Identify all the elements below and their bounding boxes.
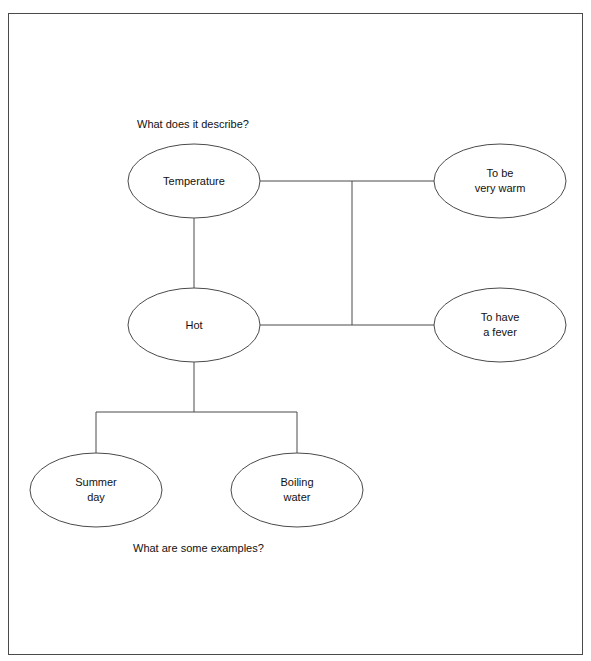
node-layer [30, 144, 566, 527]
node-oval-to-be-very-warm[interactable] [434, 144, 566, 218]
bottom-question-label: What are some examples? [133, 541, 264, 555]
diagram-page: TemperatureTo be very warmHotTo have a f… [0, 0, 591, 661]
diagram-canvas [0, 0, 591, 661]
top-question-label: What does it describe? [137, 117, 249, 131]
node-oval-temperature[interactable] [128, 144, 260, 218]
node-oval-boiling-water[interactable] [231, 453, 363, 527]
node-oval-summer-day[interactable] [30, 453, 162, 527]
node-oval-hot[interactable] [128, 288, 260, 362]
node-oval-to-have-a-fever[interactable] [434, 288, 566, 362]
